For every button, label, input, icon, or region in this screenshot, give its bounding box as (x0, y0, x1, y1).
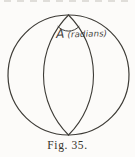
figure-caption: Fig. 35. (0, 139, 135, 151)
angle-label: A (radians) (56, 25, 108, 41)
circle-diagram (0, 0, 135, 157)
figure-35: A (radians) Fig. 35. (0, 0, 135, 157)
